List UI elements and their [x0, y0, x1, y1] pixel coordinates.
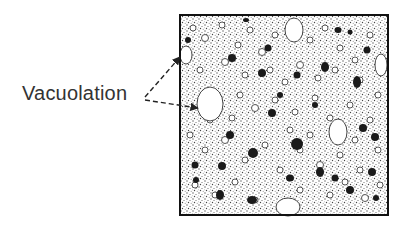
tissue-panel — [180, 15, 388, 216]
arrow-upper — [145, 57, 180, 97]
tissue-diagram — [0, 0, 403, 228]
